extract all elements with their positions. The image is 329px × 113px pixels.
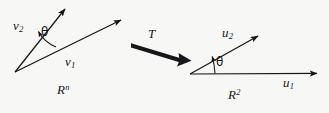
vector-u2-arrow [190,36,258,74]
transform-label-t: T [148,27,155,40]
vector-label-v1: v1 [65,55,75,70]
vector-label-u1: u1 [283,76,294,91]
transform-arrow-shaft [131,43,182,62]
linear-transformation-figure: v2 v1 θ Rn T u2 u1 θ R2 [0,0,329,113]
figure-canvas [0,0,329,113]
angle-label-theta-domain: θ [41,26,48,38]
angle-arc-theta-codomain [212,57,215,74]
space-label-r2: R2 [228,88,240,101]
codomain-panel-graphics [190,36,317,74]
transform-arrow-graphic [131,43,192,66]
angle-label-theta-codomain: θ [216,56,223,68]
space-label-rn: Rn [57,83,69,96]
vector-label-u2: u2 [222,26,233,41]
vector-u1-arrow [190,73,317,74]
vector-label-v2: v2 [13,19,23,34]
